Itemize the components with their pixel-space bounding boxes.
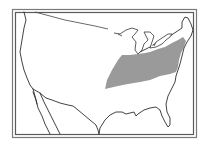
range-map: [0, 0, 205, 150]
us-canada-border: [35, 12, 108, 29]
species-range-area: [105, 37, 186, 89]
